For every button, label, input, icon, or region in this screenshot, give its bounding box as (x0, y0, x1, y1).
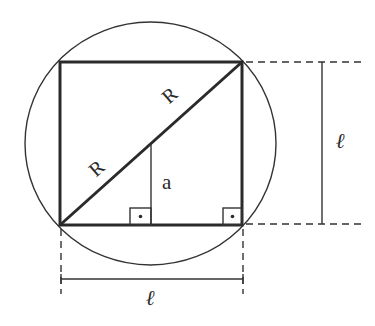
right-angle-marker-corner (223, 208, 242, 225)
vertical-dimension (246, 62, 362, 224)
radius-label-upper: R (157, 82, 182, 108)
right-angle-marker-center (130, 208, 151, 225)
apothem-label: a (162, 170, 172, 194)
side-length-label-horizontal: ℓ (146, 286, 155, 310)
side-length-label-vertical: ℓ (336, 129, 345, 153)
horizontal-dimension (61, 229, 243, 294)
square-in-circle-diagram: R R a ℓ ℓ (0, 0, 375, 326)
radius-label-lower: R (84, 155, 109, 181)
